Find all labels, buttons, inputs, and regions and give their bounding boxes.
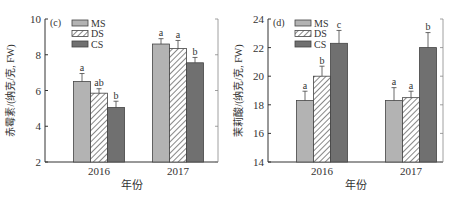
- significance-letter: b: [114, 90, 119, 101]
- bar-ds-2016: [314, 76, 331, 162]
- bar-cs-2017: [187, 63, 204, 162]
- bar-cs-2016: [331, 43, 348, 162]
- y-tick-label: 6: [36, 85, 42, 97]
- y-axis-title: 赤霉素/(纳克/克, FW): [4, 44, 17, 136]
- panel-label: (d): [273, 17, 285, 29]
- legend-label-ds: DS: [314, 28, 327, 39]
- x-tick-label: 2016: [311, 165, 334, 177]
- x-tick-label: 2016: [88, 165, 111, 177]
- y-tick-label: 2: [36, 156, 42, 168]
- bar-ms-2016: [74, 82, 91, 162]
- significance-letter: a: [303, 80, 308, 91]
- y-tick-label: 22: [253, 42, 264, 54]
- bar-ms-2017: [386, 101, 403, 162]
- y-tick-label: 10: [30, 13, 42, 25]
- bar-ds-2017: [403, 98, 420, 162]
- bar-ds-2017: [170, 48, 187, 162]
- significance-letter: a: [392, 76, 397, 87]
- legend-swatch-cs: [72, 41, 88, 47]
- x-tick-label: 2017: [167, 165, 190, 177]
- legend-swatch-ds: [72, 31, 88, 37]
- y-tick-label: 16: [253, 127, 265, 139]
- legend-label-ds: DS: [91, 28, 104, 39]
- bar-cs-2017: [420, 48, 437, 162]
- legend-swatch-cs: [295, 41, 311, 47]
- legend-swatch-ds: [295, 31, 311, 37]
- panel-label: (c): [50, 17, 61, 29]
- legend-label-cs: CS: [91, 39, 103, 50]
- significance-letter: c: [337, 19, 342, 30]
- bar-ms-2016: [297, 101, 314, 162]
- legend-swatch-ms: [72, 20, 88, 26]
- y-tick-label: 24: [253, 13, 265, 25]
- significance-letter: a: [159, 27, 164, 38]
- legend-label-ms: MS: [91, 18, 105, 29]
- chart-jasmonic-acid: 1416182022242016abc2017aab年份茉莉酸/(纳克/克, F…: [232, 13, 443, 191]
- legend-swatch-ms: [295, 20, 311, 26]
- significance-letter: a: [176, 29, 181, 40]
- chart-gibberellin: 2468102016aabb2017aab年份赤霉素/(纳克/克, FW)(c)…: [4, 13, 218, 191]
- y-tick-label: 18: [253, 99, 265, 111]
- y-tick-label: 20: [253, 70, 265, 82]
- bar-ds-2016: [91, 93, 108, 162]
- x-axis-title: 年份: [121, 178, 143, 191]
- legend-label-cs: CS: [314, 39, 326, 50]
- y-tick-label: 14: [253, 156, 265, 168]
- bar-ms-2017: [153, 44, 170, 162]
- y-tick-label: 4: [36, 120, 42, 132]
- significance-letter: a: [80, 62, 85, 73]
- significance-letter: b: [193, 46, 198, 57]
- significance-letter: b: [320, 55, 325, 66]
- y-axis-title: 茉莉酸/(纳克/克, FW): [232, 44, 245, 136]
- y-tick-label: 8: [36, 49, 42, 61]
- figure: 2468102016aabb2017aab年份赤霉素/(纳克/克, FW)(c)…: [0, 0, 457, 198]
- significance-letter: ab: [94, 77, 103, 88]
- bar-cs-2016: [108, 107, 125, 162]
- significance-letter: a: [409, 80, 414, 91]
- x-tick-label: 2017: [400, 165, 423, 177]
- x-axis-title: 年份: [345, 178, 367, 191]
- legend-label-ms: MS: [314, 18, 328, 29]
- significance-letter: b: [426, 21, 431, 32]
